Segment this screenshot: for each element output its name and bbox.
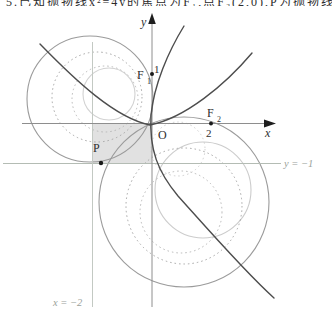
point-p-label: P [93, 141, 100, 155]
point-p [99, 161, 103, 165]
directrix-label: y = −1 [283, 158, 313, 169]
vline-label: x = −2 [52, 297, 83, 308]
figure-page: 5.已知抛物线x²=4y的焦点为F₁,点F₂(2,0),P为抛物线上一点,则下列… [0, 0, 335, 328]
focus1-label: F [137, 68, 144, 82]
y-axis-arrow [148, 13, 156, 24]
hyperbola-branch-curve [151, 26, 274, 298]
tick-label-2: 2 [206, 127, 212, 139]
x-axis-label: x [264, 126, 271, 140]
circle-upper-left-light-small [83, 68, 135, 120]
y-axis-label: y [140, 15, 147, 29]
math-figure-svg: yxOF1F212Py = −1x = −2 [0, 0, 335, 328]
origin-label: O [158, 128, 167, 142]
focus2-point [209, 122, 213, 126]
parabola-curve [40, 44, 252, 125]
focus1-label-sub: 1 [147, 77, 151, 86]
tick-label-1: 1 [154, 63, 160, 75]
focus2-label-sub: 2 [217, 115, 221, 124]
focus2-label: F [207, 106, 214, 120]
